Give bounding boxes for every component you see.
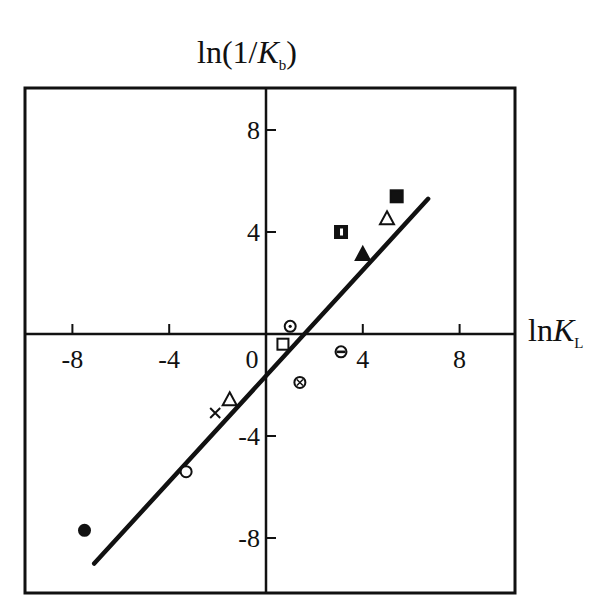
y-tick-label: 4 bbox=[247, 218, 260, 247]
x-tick-label: 0 bbox=[246, 345, 259, 374]
data-points bbox=[78, 190, 403, 537]
x-tick-label: -8 bbox=[62, 345, 84, 374]
marker-open-triangle bbox=[380, 211, 394, 224]
marker-x bbox=[210, 408, 220, 418]
y-tick-label: -4 bbox=[238, 422, 260, 451]
marker-circle-dot bbox=[285, 321, 296, 332]
x-tick-label: -4 bbox=[158, 345, 180, 374]
marker-open-triangle bbox=[223, 392, 237, 405]
marker-circle-bar bbox=[336, 346, 347, 357]
plot-frame bbox=[25, 88, 515, 593]
marker-square-half bbox=[335, 226, 347, 238]
y-tick-label: -8 bbox=[238, 524, 260, 553]
marker-filled-triangle bbox=[356, 247, 370, 260]
marker-filled-circle bbox=[78, 524, 91, 537]
fit-line bbox=[94, 199, 428, 564]
y-axis-label: ln(1/Kb) bbox=[197, 34, 297, 74]
x-tick-label: 8 bbox=[453, 345, 466, 374]
y-tick-label: 8 bbox=[247, 116, 260, 145]
marker-open-circle bbox=[181, 466, 192, 477]
scatter-plot: -8-4048-8-448 bbox=[0, 0, 606, 609]
marker-open-square bbox=[277, 339, 288, 350]
axes bbox=[25, 88, 515, 593]
x-tick-label: 4 bbox=[356, 345, 369, 374]
marker-circle-cross bbox=[294, 377, 305, 388]
marker-filled-square bbox=[391, 190, 403, 202]
x-axis-label: lnKL bbox=[528, 312, 583, 352]
